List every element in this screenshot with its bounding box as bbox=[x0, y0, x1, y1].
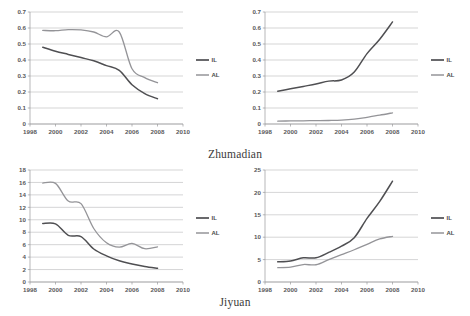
legend-label-al: AL bbox=[447, 72, 455, 78]
y-axis-tick-label: 0.5 bbox=[17, 40, 26, 47]
series-line-il bbox=[43, 47, 158, 99]
x-axis-tick-label: 2008 bbox=[151, 286, 165, 293]
y-axis-tick-label: 0.3 bbox=[252, 72, 261, 79]
y-axis-tick-label: 0 bbox=[23, 120, 27, 127]
caption-jiyuan: Jiyuan bbox=[0, 296, 470, 308]
y-axis-tick-label: 0.1 bbox=[252, 104, 261, 111]
series-line-il bbox=[278, 22, 393, 91]
x-axis-tick-label: 2000 bbox=[284, 286, 298, 293]
x-axis-tick-label: 2010 bbox=[411, 128, 425, 135]
y-axis-tick-label: 0.4 bbox=[17, 56, 26, 63]
y-axis-tick-label: 14 bbox=[19, 191, 26, 198]
y-axis-tick-label: 0.1 bbox=[17, 104, 26, 111]
legend-label-il: IL bbox=[212, 215, 218, 221]
y-axis-tick-label: 0.7 bbox=[17, 8, 26, 15]
y-axis-tick-label: 0.5 bbox=[252, 40, 261, 47]
series-line-al bbox=[43, 30, 158, 83]
x-axis-tick-label: 1998 bbox=[258, 286, 272, 293]
x-axis-tick-label: 2010 bbox=[176, 128, 190, 135]
x-axis-tick-label: 2010 bbox=[176, 286, 190, 293]
chart-svg-bottom-left: 0246810121416181998200020022004200620082… bbox=[0, 160, 235, 308]
y-axis-tick-label: 0.2 bbox=[252, 88, 261, 95]
y-axis-tick-label: 10 bbox=[19, 216, 26, 223]
x-axis-tick-label: 2002 bbox=[74, 128, 88, 135]
y-axis-tick-label: 0 bbox=[23, 278, 27, 285]
y-axis-tick-label: 0 bbox=[258, 120, 262, 127]
x-axis-tick-label: 2010 bbox=[411, 286, 425, 293]
y-axis-tick-label: 8 bbox=[23, 228, 27, 235]
x-axis-tick-label: 1998 bbox=[23, 128, 37, 135]
x-axis-tick-label: 2002 bbox=[309, 286, 323, 293]
legend-label-al: AL bbox=[212, 230, 220, 236]
x-axis-tick-label: 2000 bbox=[49, 128, 63, 135]
y-axis-tick-label: 0.2 bbox=[17, 88, 26, 95]
x-axis-tick-label: 2000 bbox=[284, 128, 298, 135]
x-axis-tick-label: 2006 bbox=[360, 286, 374, 293]
x-axis-tick-label: 2002 bbox=[74, 286, 88, 293]
chart-svg-bottom-right: 05101520251998200020022004200620082010IL… bbox=[235, 160, 470, 308]
x-axis-tick-label: 2006 bbox=[125, 286, 139, 293]
legend-label-il: IL bbox=[212, 57, 218, 63]
y-axis-tick-label: 0.4 bbox=[252, 56, 261, 63]
chart-panel-bottom-left: 0246810121416181998200020022004200620082… bbox=[0, 160, 235, 308]
y-axis-tick-label: 12 bbox=[19, 204, 26, 211]
y-axis-tick-label: 2 bbox=[23, 266, 27, 273]
y-axis-tick-label: 0.3 bbox=[17, 72, 26, 79]
chart-panel-top-left: 00.10.20.30.40.50.60.7199820002002200420… bbox=[0, 2, 235, 150]
x-axis-tick-label: 2004 bbox=[100, 286, 114, 293]
y-axis-tick-label: 5 bbox=[258, 256, 262, 263]
y-axis-tick-label: 25 bbox=[254, 166, 261, 173]
legend-label-al: AL bbox=[212, 72, 220, 78]
chart-svg-top-left: 00.10.20.30.40.50.60.7199820002002200420… bbox=[0, 2, 235, 150]
y-axis-tick-label: 0.6 bbox=[17, 24, 26, 31]
x-axis-tick-label: 2004 bbox=[100, 128, 114, 135]
series-line-il bbox=[278, 181, 393, 262]
y-axis-tick-label: 16 bbox=[19, 179, 26, 186]
y-axis-tick-label: 4 bbox=[23, 253, 27, 260]
x-axis-tick-label: 2002 bbox=[309, 128, 323, 135]
y-axis-tick-label: 15 bbox=[254, 211, 261, 218]
figure-container: 00.10.20.30.40.50.60.7199820002002200420… bbox=[0, 0, 470, 316]
series-line-al bbox=[278, 236, 393, 267]
series-line-al bbox=[43, 182, 158, 249]
x-axis-tick-label: 2006 bbox=[125, 128, 139, 135]
y-axis-tick-label: 18 bbox=[19, 166, 26, 173]
caption-zhumadian: Zhumadian bbox=[0, 148, 470, 160]
x-axis-tick-label: 2008 bbox=[151, 128, 165, 135]
x-axis-tick-label: 2008 bbox=[386, 128, 400, 135]
series-line-il bbox=[43, 223, 158, 268]
chart-panel-bottom-right: 05101520251998200020022004200620082010IL… bbox=[235, 160, 470, 308]
y-axis-tick-label: 0.7 bbox=[252, 8, 261, 15]
legend-label-il: IL bbox=[447, 57, 453, 63]
x-axis-tick-label: 2000 bbox=[49, 286, 63, 293]
x-axis-tick-label: 2006 bbox=[360, 128, 374, 135]
y-axis-tick-label: 6 bbox=[23, 241, 27, 248]
x-axis-tick-label: 2004 bbox=[335, 128, 349, 135]
series-line-al bbox=[278, 113, 393, 121]
x-axis-tick-label: 2004 bbox=[335, 286, 349, 293]
y-axis-tick-label: 0.6 bbox=[252, 24, 261, 31]
legend-label-al: AL bbox=[447, 230, 455, 236]
y-axis-tick-label: 0 bbox=[258, 278, 262, 285]
x-axis-tick-label: 1998 bbox=[23, 286, 37, 293]
chart-panel-top-right: 00.10.20.30.40.50.60.7199820002002200420… bbox=[235, 2, 470, 150]
chart-svg-top-right: 00.10.20.30.40.50.60.7199820002002200420… bbox=[235, 2, 470, 150]
legend-label-il: IL bbox=[447, 215, 453, 221]
y-axis-tick-label: 10 bbox=[254, 233, 261, 240]
x-axis-tick-label: 2008 bbox=[386, 286, 400, 293]
y-axis-tick-label: 20 bbox=[254, 189, 261, 196]
x-axis-tick-label: 1998 bbox=[258, 128, 272, 135]
